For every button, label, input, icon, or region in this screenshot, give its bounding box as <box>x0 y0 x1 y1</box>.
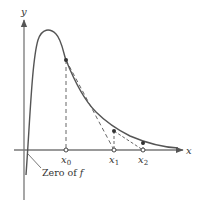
y-axis-label: y <box>20 6 27 17</box>
curve-point-x1 <box>112 129 116 133</box>
tangent-line-x0 <box>66 60 114 150</box>
curve-point-x2 <box>141 141 145 145</box>
label-x2: x2 <box>138 154 148 167</box>
label-x0: x0 <box>61 154 71 167</box>
axis-point-x0 <box>64 148 68 152</box>
label-x1: x1 <box>109 154 119 167</box>
axis-point-x1 <box>112 148 116 152</box>
zero-annotation-leader <box>28 154 41 168</box>
tangent-line-x1 <box>114 131 143 150</box>
zero-annotation: Zero of f <box>42 167 85 178</box>
function-curve <box>26 30 178 175</box>
x-axis-label: x <box>186 145 192 156</box>
newton-method-diagram: x y x0 x1 x2 Zero of f <box>0 0 204 215</box>
curve-point-x0 <box>64 58 68 62</box>
axis-point-x2 <box>141 148 145 152</box>
